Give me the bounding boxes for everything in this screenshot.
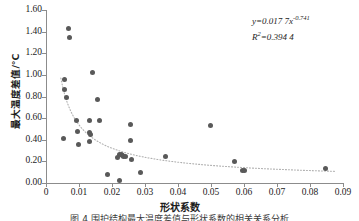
- x-tick-mark: [244, 183, 245, 187]
- trendline-path: [61, 78, 335, 171]
- scatter-point: [117, 178, 122, 183]
- scatter-point: [123, 154, 128, 159]
- equation-exponent: -0.741: [293, 14, 310, 21]
- y-axis-title: 最大温度差值/°C: [8, 31, 22, 151]
- scatter-point: [115, 155, 120, 160]
- scatter-point: [62, 77, 67, 82]
- x-tick-mark: [277, 183, 278, 187]
- x-tick-mark: [343, 183, 344, 187]
- figure-scatter-shape-coefficient: 0.000.200.400.600.801.001.201.401.60 00.…: [0, 0, 359, 221]
- r-squared-value: R2=0.394 4: [252, 28, 352, 44]
- y-tick-label: 0.20: [2, 156, 42, 166]
- scatter-point: [163, 154, 168, 159]
- r-squared-number: =0.394 4: [261, 32, 294, 42]
- x-tick-mark: [46, 183, 47, 187]
- x-tick-label: 0.09: [323, 187, 359, 197]
- y-tick-label: 1.60: [2, 5, 42, 15]
- scatter-point: [76, 142, 81, 147]
- scatter-point: [208, 123, 213, 128]
- regression-annotation: y=0.017 7x-0.741 R2=0.394 4: [252, 12, 352, 43]
- figure-caption: 图 4 围护结构最大温度差值与形状系数的相关关系分析: [0, 212, 359, 221]
- scatter-point: [90, 70, 95, 75]
- equation-coefficient: =0.017 7: [256, 16, 289, 26]
- scatter-point: [97, 118, 102, 123]
- x-axis-line: [46, 183, 343, 184]
- scatter-point: [62, 87, 67, 92]
- scatter-point: [105, 172, 110, 177]
- x-tick-mark: [112, 183, 113, 187]
- scatter-point: [138, 170, 143, 175]
- x-tick-mark: [79, 183, 80, 187]
- x-tick-mark: [178, 183, 179, 187]
- scatter-point: [67, 35, 72, 40]
- scatter-point: [64, 95, 69, 100]
- x-tick-mark: [310, 183, 311, 187]
- scatter-point: [323, 166, 328, 171]
- regression-equation: y=0.017 7x-0.741: [252, 12, 352, 28]
- x-tick-mark: [211, 183, 212, 187]
- scatter-point: [95, 97, 100, 102]
- x-tick-mark: [145, 183, 146, 187]
